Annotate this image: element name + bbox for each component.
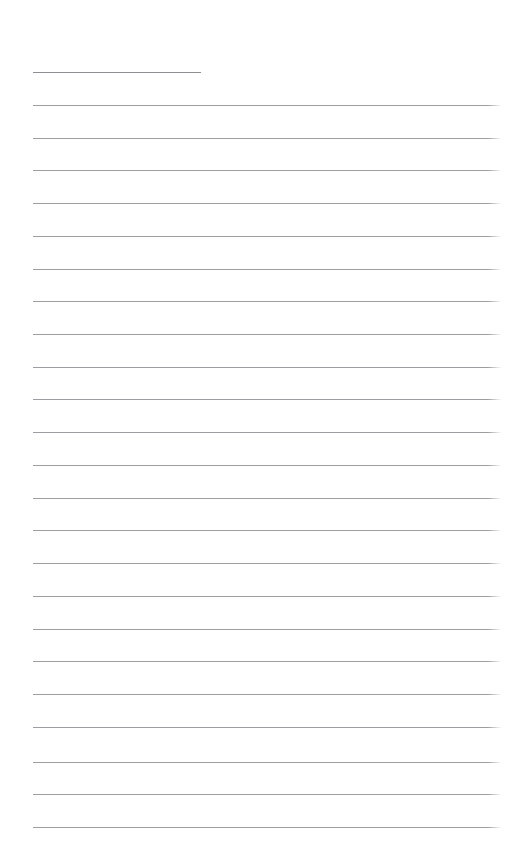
ruled-line [33, 138, 503, 139]
ruled-line [33, 762, 503, 763]
ruled-line [33, 694, 503, 695]
ruled-line [33, 563, 503, 564]
ruled-line [33, 334, 503, 335]
ruled-line [33, 661, 503, 662]
ruled-line [33, 72, 201, 73]
ruled-line [33, 530, 503, 531]
ruled-line [33, 727, 503, 728]
ruled-line [33, 203, 503, 204]
ruled-line [33, 629, 503, 630]
ruled-line [33, 301, 503, 302]
ruled-paper-page [0, 0, 509, 863]
ruled-line [33, 432, 503, 433]
ruled-line [33, 827, 503, 828]
ruled-line [33, 170, 503, 171]
ruled-line [33, 498, 503, 499]
ruled-line [33, 465, 503, 466]
ruled-line [33, 399, 503, 400]
ruled-line [33, 269, 503, 270]
ruled-line [33, 794, 503, 795]
ruled-line [33, 367, 503, 368]
ruled-line [33, 596, 503, 597]
ruled-line [33, 236, 503, 237]
ruled-line [33, 105, 503, 106]
